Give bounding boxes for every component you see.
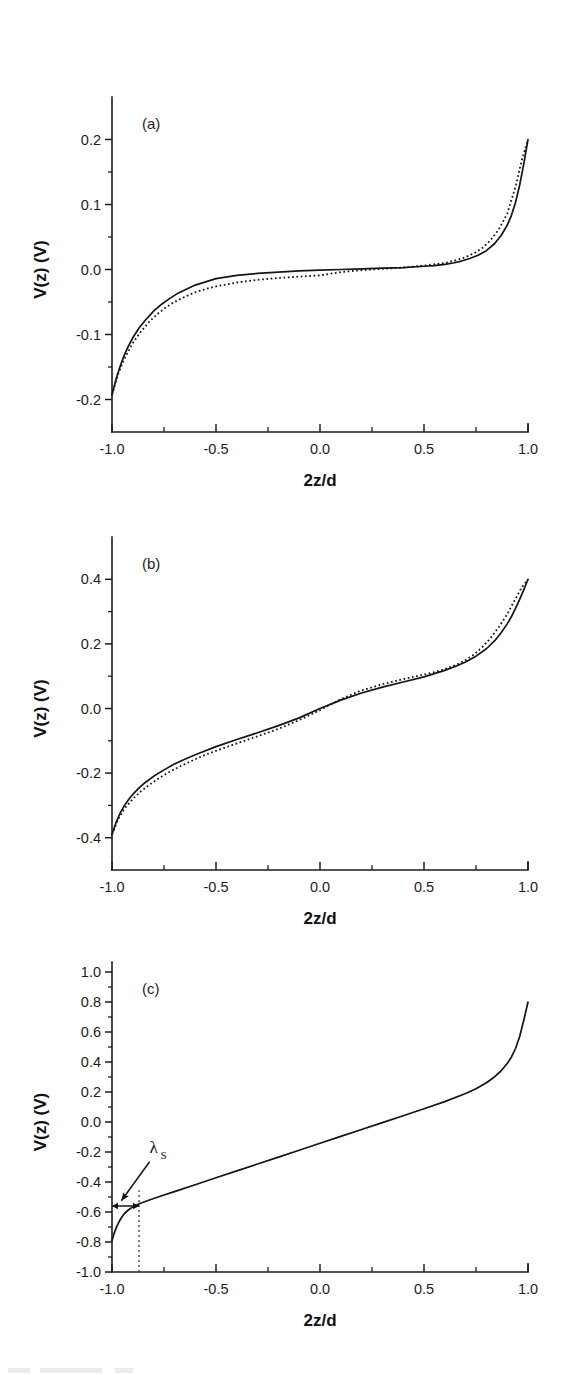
y-tick-label: 0.2 bbox=[81, 132, 101, 148]
x-tick-label: 1.0 bbox=[518, 441, 538, 457]
y-axis-title: V(z) (V) bbox=[31, 679, 50, 738]
x-tick-label: 0.0 bbox=[310, 1281, 330, 1297]
x-tick-label: -1.0 bbox=[100, 879, 125, 895]
curve-dotted bbox=[112, 140, 528, 395]
y-tick-label: -0.2 bbox=[76, 392, 101, 408]
x-tick-label: 0.5 bbox=[414, 441, 434, 457]
x-axis-title: 2z/d bbox=[303, 1311, 336, 1330]
y-tick-label: -0.2 bbox=[76, 765, 101, 781]
scan-artifact bbox=[115, 1368, 133, 1373]
y-tick-label: 0.2 bbox=[81, 636, 101, 652]
y-tick-label: 0.0 bbox=[81, 701, 101, 717]
panel-a: 0.20.10.0-0.1-0.2-1.0-0.50.00.51.0(a)2z/… bbox=[0, 40, 562, 460]
y-tick-label: 1.0 bbox=[81, 964, 101, 980]
y-tick-label: 0.0 bbox=[81, 262, 101, 278]
panel-tag-b: (b) bbox=[142, 555, 160, 572]
y-tick-label: -0.2 bbox=[76, 1144, 101, 1160]
x-tick-label: 0.0 bbox=[310, 441, 330, 457]
y-tick-label: 0.4 bbox=[81, 1054, 101, 1070]
x-tick-label: -1.0 bbox=[100, 1281, 125, 1297]
x-tick-label: 1.0 bbox=[518, 879, 538, 895]
scan-artifact bbox=[8, 1368, 30, 1373]
panel-tag-a: (a) bbox=[142, 115, 160, 132]
plot-a: 0.20.10.0-0.1-0.2-1.0-0.50.00.51.0(a)2z/… bbox=[0, 40, 562, 460]
y-tick-label: -0.6 bbox=[76, 1204, 101, 1220]
plot-c: 1.00.80.60.40.20.0-0.2-0.4-0.6-0.8-1.0-1… bbox=[0, 940, 562, 1360]
x-axis-title: 2z/d bbox=[303, 471, 336, 490]
y-tick-label: 0.4 bbox=[81, 571, 101, 587]
y-axis-title: V(z) (V) bbox=[31, 1093, 50, 1152]
y-tick-label: -0.8 bbox=[76, 1234, 101, 1250]
y-tick-label: -0.4 bbox=[76, 830, 101, 846]
lambda-symbol: λ bbox=[149, 1138, 158, 1157]
x-tick-label: 0.0 bbox=[310, 879, 330, 895]
y-tick-label: 0.8 bbox=[81, 994, 101, 1010]
panel-b: 0.40.20.0-0.2-0.4-1.0-0.50.00.51.0(b)2z/… bbox=[0, 500, 562, 900]
lambda-arrowhead-left bbox=[112, 1203, 118, 1209]
curve-solid bbox=[112, 140, 528, 395]
lambda-pointer-arrow bbox=[121, 1162, 149, 1201]
figure-container: 0.20.10.0-0.1-0.2-1.0-0.50.00.51.0(a)2z/… bbox=[0, 0, 562, 1375]
x-tick-label: 0.5 bbox=[414, 1281, 434, 1297]
x-axis-title: 2z/d bbox=[303, 909, 336, 928]
x-tick-label: -0.5 bbox=[204, 1281, 229, 1297]
plot-b: 0.40.20.0-0.2-0.4-1.0-0.50.00.51.0(b)2z/… bbox=[0, 500, 562, 900]
x-tick-label: -1.0 bbox=[100, 441, 125, 457]
y-tick-label: -1.0 bbox=[76, 1264, 101, 1280]
x-tick-label: 1.0 bbox=[518, 1281, 538, 1297]
curve-dotted bbox=[112, 579, 528, 834]
y-tick-label: -0.4 bbox=[76, 1174, 101, 1190]
y-tick-label: 0.6 bbox=[81, 1024, 101, 1040]
panel-c: 1.00.80.60.40.20.0-0.2-0.4-0.6-0.8-1.0-1… bbox=[0, 940, 562, 1360]
curve-solid bbox=[112, 1002, 528, 1241]
y-tick-label: 0.1 bbox=[81, 197, 101, 213]
y-tick-label: 0.0 bbox=[81, 1114, 101, 1130]
lambda-subscript: S bbox=[161, 1149, 167, 1161]
y-tick-label: -0.1 bbox=[76, 327, 101, 343]
y-axis-title: V(z) (V) bbox=[31, 240, 50, 299]
x-tick-label: -0.5 bbox=[204, 879, 229, 895]
y-tick-label: 0.2 bbox=[81, 1084, 101, 1100]
scan-artifact bbox=[40, 1368, 102, 1373]
x-tick-label: 0.5 bbox=[414, 879, 434, 895]
x-tick-label: -0.5 bbox=[204, 441, 229, 457]
curve-solid bbox=[112, 579, 528, 834]
panel-tag-c: (c) bbox=[142, 980, 160, 997]
